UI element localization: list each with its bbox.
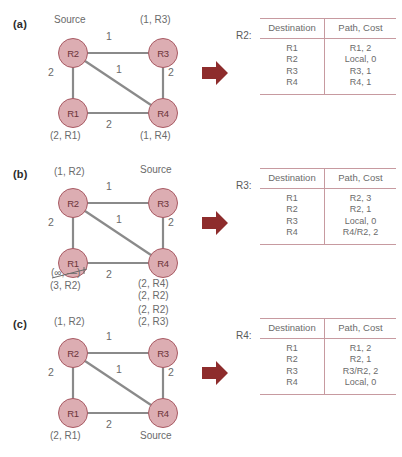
node-label-r4: Source (140, 430, 172, 442)
node-label-r3-line1: (2, R2) (138, 304, 169, 316)
panel-label-a: (a) (13, 18, 27, 30)
panel-label-b: (b) (13, 168, 28, 180)
node-label-r3: (2, R2) (2, R3) (138, 304, 169, 328)
edge-weight-r2-r1: 2 (48, 366, 54, 378)
struck-out-label-r1: (∞, —) (51, 267, 89, 281)
strikethrough-icon (51, 267, 89, 281)
cell-destination: R4 (260, 377, 324, 394)
edge-weight-r3-r4: 2 (168, 366, 174, 378)
node-r3[interactable]: R3 (148, 188, 178, 218)
node-label-r2: (1, R2) (54, 166, 85, 178)
edge-weight-r2-r3: 1 (106, 180, 112, 192)
cell-path-cost: R2, 1 (324, 354, 396, 366)
edge-weight-r2-r4: 1 (116, 213, 122, 225)
node-label-r2: Source (54, 14, 86, 26)
table-row: R3 R3, 1 (260, 66, 396, 78)
cell-destination: R3 (260, 366, 324, 378)
cell-path-cost: Local, 0 (324, 377, 396, 394)
cell-path-cost: R1, 2 (324, 338, 396, 354)
graph-c: R2 R3 R1 R4 1 2 1 2 2 (1, R2) (2, R2) (2… (48, 314, 188, 439)
table-header-path-cost: Path, Cost (324, 169, 396, 189)
node-label-r3: Source (140, 164, 172, 176)
node-label-r1: (2, R1) (50, 130, 81, 142)
table-row: R2 R2, 1 (260, 354, 396, 366)
cell-path-cost: Local, 0 (324, 54, 396, 66)
node-r2[interactable]: R2 (58, 188, 88, 218)
table-header-path-cost: Path, Cost (324, 19, 396, 39)
edge-weight-r1-r4: 2 (106, 418, 112, 430)
cell-path-cost: R3, 1 (324, 66, 396, 78)
node-label-r3: (1, R3) (140, 14, 171, 26)
edge-weight-r2-r4: 1 (116, 63, 122, 75)
edge-weight-r2-r3: 1 (106, 30, 112, 42)
node-r2[interactable]: R2 (58, 38, 88, 68)
node-r3[interactable]: R3 (148, 38, 178, 68)
cell-destination: R2 (260, 204, 324, 216)
table-row: R4 R4, 1 (260, 77, 396, 94)
cell-destination: R2 (260, 354, 324, 366)
edge-weight-r2-r1: 2 (48, 216, 54, 228)
table-router-label: R4: (236, 330, 252, 341)
edge-weight-r2-r3: 1 (106, 330, 112, 342)
cell-path-cost: R1, 2 (324, 38, 396, 54)
flow-arrow-icon (198, 56, 232, 90)
table-row: R3 R3/R2, 2 (260, 366, 396, 378)
edge-weight-r1-r4: 2 (106, 118, 112, 130)
node-label-r4: (2, R4) (2, R2) (138, 278, 169, 302)
node-r4[interactable]: R4 (148, 248, 178, 278)
panel-label-c: (c) (13, 318, 27, 330)
table-header-destination: Destination (260, 169, 324, 189)
cell-destination: R2 (260, 54, 324, 66)
cell-destination: R1 (260, 188, 324, 204)
panel-a: (a) R2 R3 R1 R4 1 2 1 2 2 Source (1, R3)… (0, 0, 402, 152)
graph-b: R2 R3 R1 R4 1 2 1 2 2 (1, R2) Source (∞,… (48, 164, 188, 289)
edge-weight-r3-r4: 2 (168, 66, 174, 78)
table-row: R4 Local, 0 (260, 377, 396, 394)
table-row: R1 R1, 2 (260, 338, 396, 354)
cell-destination: R3 (260, 216, 324, 228)
cell-path-cost: R2, 1 (324, 204, 396, 216)
cell-destination: R3 (260, 66, 324, 78)
table-row: R2 R2, 1 (260, 204, 396, 216)
table-header-destination: Destination (260, 319, 324, 339)
flow-arrow-icon (198, 206, 232, 240)
node-label-r4-line1: (2, R4) (138, 278, 169, 290)
node-r3[interactable]: R3 (148, 338, 178, 368)
cell-path-cost: R4/R2, 2 (324, 227, 396, 244)
table-row: R4 R4/R2, 2 (260, 227, 396, 244)
table-router-label: R2: (236, 30, 252, 41)
node-r4[interactable]: R4 (148, 98, 178, 128)
cell-path-cost: Local, 0 (324, 216, 396, 228)
panel-b: (b) R2 R3 R1 R4 1 2 1 2 2 (1, R2) Source… (0, 150, 402, 302)
cell-path-cost: R3/R2, 2 (324, 366, 396, 378)
node-label-r2: (1, R2) (54, 316, 85, 328)
cell-destination: R4 (260, 227, 324, 244)
edge-weight-r2-r4: 1 (116, 363, 122, 375)
node-label-r4: (1, R4) (140, 130, 171, 142)
node-label-r1: (2, R1) (50, 430, 81, 442)
cell-destination: R1 (260, 38, 324, 54)
node-label-r3-line2: (2, R3) (138, 316, 169, 328)
node-label-r1: (3, R2) (50, 280, 81, 292)
edge-weight-r1-r4: 2 (106, 268, 112, 280)
cell-destination: R1 (260, 338, 324, 354)
cell-path-cost: R4, 1 (324, 77, 396, 94)
graph-a: R2 R3 R1 R4 1 2 1 2 2 Source (1, R3) (2,… (48, 14, 188, 139)
node-r4[interactable]: R4 (148, 398, 178, 428)
table-header-path-cost: Path, Cost (324, 319, 396, 339)
node-r2[interactable]: R2 (58, 338, 88, 368)
edge-weight-r2-r1: 2 (48, 66, 54, 78)
node-r1[interactable]: R1 (58, 398, 88, 428)
edge-weight-r3-r4: 2 (168, 216, 174, 228)
flow-arrow-icon (198, 356, 232, 390)
cell-path-cost: R2, 3 (324, 188, 396, 204)
table-header-destination: Destination (260, 19, 324, 39)
cell-destination: R4 (260, 77, 324, 94)
table-row: R2 Local, 0 (260, 54, 396, 66)
table-row: R1 R2, 3 (260, 188, 396, 204)
table-row: R1 R1, 2 (260, 38, 396, 54)
table-row: R3 Local, 0 (260, 216, 396, 228)
table-router-label: R3: (236, 180, 252, 191)
node-r1[interactable]: R1 (58, 98, 88, 128)
panel-c: (c) R2 R3 R1 R4 1 2 1 2 2 (1, R2) (2, R2… (0, 300, 402, 452)
